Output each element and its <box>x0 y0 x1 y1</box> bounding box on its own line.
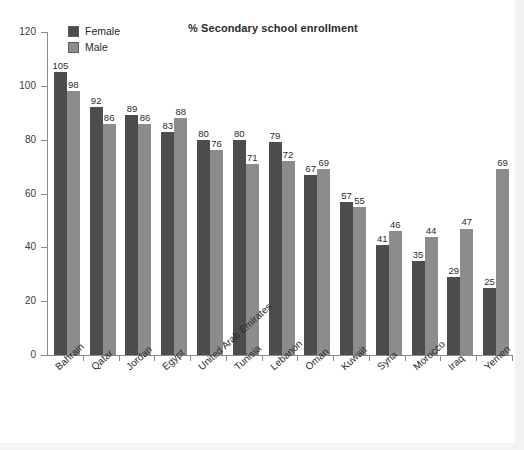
bar-female[interactable] <box>125 115 138 355</box>
y-axis-tick-label: 40 <box>6 241 36 252</box>
bar-value-label: 55 <box>349 195 370 206</box>
y-axis-tick-label: 0 <box>6 349 36 360</box>
bar-value-label: 79 <box>265 130 286 141</box>
x-axis-tick <box>333 356 334 361</box>
plot-area: 1059892868986838880768071797267695755414… <box>47 32 512 355</box>
y-axis-tick-label: 80 <box>6 134 36 145</box>
bar-value-label: 80 <box>229 128 250 139</box>
x-axis-tick <box>512 356 513 361</box>
bar-male[interactable] <box>103 124 116 355</box>
bar-value-label: 69 <box>313 157 334 168</box>
bar-female[interactable] <box>412 261 425 355</box>
bar-female[interactable] <box>161 132 174 355</box>
x-axis-tick <box>226 356 227 361</box>
bar-male[interactable] <box>389 231 402 355</box>
bar-value-label: 76 <box>206 138 227 149</box>
bar-value-label: 105 <box>50 60 71 71</box>
bar-value-label: 98 <box>63 79 84 90</box>
bar-female[interactable] <box>483 288 496 355</box>
y-axis-tick-label: 120 <box>6 26 36 37</box>
bar-value-label: 86 <box>99 112 120 123</box>
y-axis-tick-label: 60 <box>6 188 36 199</box>
bar-value-label: 71 <box>242 152 263 163</box>
bar-value-label: 80 <box>193 128 214 139</box>
bar-value-label: 44 <box>421 225 442 236</box>
bar-male[interactable] <box>460 229 473 356</box>
bar-value-label: 46 <box>385 219 406 230</box>
x-axis-tick <box>262 356 263 361</box>
x-axis-tick <box>369 356 370 361</box>
x-axis-tick <box>476 356 477 361</box>
bar-female[interactable] <box>447 277 460 355</box>
page-edge-right <box>515 0 524 450</box>
bar-value-label: 88 <box>170 106 191 117</box>
bar-male[interactable] <box>282 161 295 355</box>
bar-male[interactable] <box>210 150 223 355</box>
bar-value-label: 92 <box>86 95 107 106</box>
bar-male[interactable] <box>317 169 330 355</box>
y-axis-tick-label: 20 <box>6 295 36 306</box>
y-axis-tick-label: 100 <box>6 80 36 91</box>
bar-value-label: 47 <box>456 216 477 227</box>
bar-value-label: 72 <box>278 149 299 160</box>
bar-male[interactable] <box>425 237 438 355</box>
bar-value-label: 86 <box>134 112 155 123</box>
page-edge-bottom <box>0 443 524 450</box>
bar-female[interactable] <box>340 202 353 355</box>
x-axis-tick <box>297 356 298 361</box>
bar-female[interactable] <box>54 72 67 355</box>
bar-female[interactable] <box>376 245 389 355</box>
bar-male[interactable] <box>138 124 151 355</box>
bar-female[interactable] <box>269 142 282 355</box>
bar-male[interactable] <box>496 169 509 355</box>
x-axis-tick <box>119 356 120 361</box>
bar-male[interactable] <box>174 118 187 355</box>
bar-male[interactable] <box>67 91 80 355</box>
x-axis-tick <box>154 356 155 361</box>
x-axis-tick <box>405 356 406 361</box>
bar-value-label: 69 <box>492 157 513 168</box>
bar-chart: % Secondary school enrollment Female Mal… <box>0 0 524 450</box>
x-axis-tick <box>83 356 84 361</box>
bar-female[interactable] <box>90 107 103 355</box>
y-axis-tick <box>41 355 48 356</box>
bar-female[interactable] <box>197 140 210 355</box>
x-axis-tick <box>190 356 191 361</box>
bar-female[interactable] <box>304 175 317 355</box>
bar-male[interactable] <box>353 207 366 355</box>
x-axis-tick <box>440 356 441 361</box>
